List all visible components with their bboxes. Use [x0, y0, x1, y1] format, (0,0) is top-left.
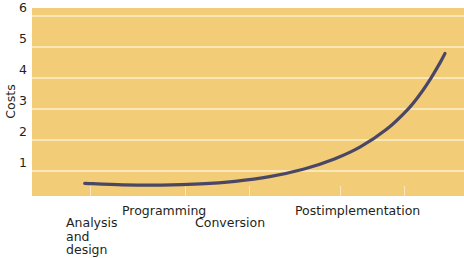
y-axis-tick-1: 1 [0, 157, 27, 169]
x-axis-label-analysis-and-design: Analysis and design [66, 216, 118, 257]
cost-curve [32, 8, 464, 196]
x-axis-label-programming: Programming [122, 204, 206, 218]
plot-area [32, 8, 464, 196]
x-axis-label-conversion: Conversion [195, 216, 265, 230]
y-axis-tick-6: 6 [0, 2, 27, 14]
y-axis-title: Costs [4, 74, 17, 130]
y-axis-tick-5: 5 [0, 33, 27, 45]
cost-of-error-chart: 6 5 4 3 2 1 Costs Analysis and design Pr… [0, 0, 464, 258]
x-axis-label-postimplementation: Postimplementation [295, 204, 420, 218]
